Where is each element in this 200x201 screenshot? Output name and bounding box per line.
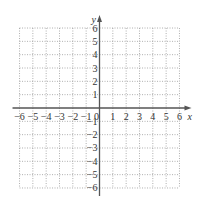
- y-tick-label: −1: [87, 116, 98, 127]
- x-tick-label: −6: [14, 111, 25, 122]
- x-tick-label: 6: [177, 111, 182, 122]
- coordinate-plane: −6−5−4−3−2−10123456−6−5−4−3−2−1123456 x …: [0, 0, 200, 201]
- x-tick-label: −2: [68, 111, 79, 122]
- y-tick-label: 1: [93, 89, 98, 100]
- x-tick-label: 5: [164, 111, 169, 122]
- x-tick-label: 4: [150, 111, 155, 122]
- x-axis-label: x: [186, 111, 192, 122]
- y-axis-label: y: [91, 14, 97, 25]
- y-axis-arrow-icon: [97, 15, 102, 22]
- y-tick-label: −3: [87, 142, 98, 153]
- x-tick-label: 2: [124, 111, 129, 122]
- x-tick-label: −4: [41, 111, 52, 122]
- y-tick-label: −4: [87, 156, 98, 167]
- x-tick-label: 1: [110, 111, 115, 122]
- y-tick-label: −2: [87, 129, 98, 140]
- y-tick-label: −5: [87, 169, 98, 180]
- x-axis-arrow-icon: [184, 106, 191, 111]
- x-tick-label: −5: [28, 111, 39, 122]
- y-tick-label: 4: [93, 49, 98, 60]
- y-tick-label: 3: [93, 63, 98, 74]
- y-tick-label: 5: [93, 36, 98, 47]
- x-tick-label: 3: [137, 111, 142, 122]
- axes: [13, 15, 192, 196]
- y-tick-label: 2: [93, 76, 98, 87]
- x-tick-label: −3: [54, 111, 65, 122]
- y-tick-label: −6: [87, 182, 98, 193]
